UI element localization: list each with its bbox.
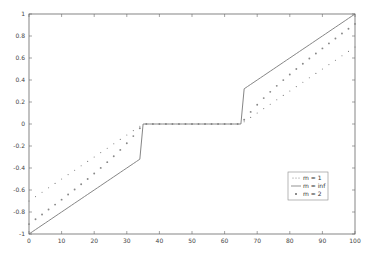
x-tick-label: 70 [253, 237, 261, 244]
point-m-2 [276, 85, 278, 87]
point-m-1 [68, 174, 69, 175]
y-tick-label: 0.6 [15, 54, 25, 61]
x-tick-label: 90 [319, 237, 327, 244]
point-m-2 [152, 123, 154, 125]
x-tick-label: 0 [27, 237, 31, 244]
point-m-2 [165, 123, 167, 125]
point-m-1 [348, 51, 349, 52]
point-m-2 [74, 189, 76, 191]
point-m-1 [283, 95, 284, 96]
legend-label: m = 2 [303, 190, 322, 197]
y-tick-label: 0 [21, 120, 25, 127]
point-m-1 [94, 156, 95, 157]
point-m-2 [106, 161, 108, 163]
point-m-2 [87, 178, 89, 180]
series-layer [28, 14, 356, 234]
x-tick-label: 60 [221, 237, 229, 244]
y-tick-label: -0.8 [13, 208, 25, 215]
x-tick-label: 50 [188, 237, 196, 244]
point-m-1 [289, 90, 290, 91]
point-m-2 [28, 223, 30, 225]
y-axis: -1-0.8-0.6-0.4-0.200.20.40.60.81 [13, 10, 355, 237]
point-m-2 [145, 123, 147, 125]
point-m-2 [295, 68, 297, 70]
point-m-2 [41, 213, 43, 215]
point-m-1 [55, 183, 56, 184]
point-m-2 [100, 167, 102, 169]
point-m-2 [67, 194, 69, 196]
point-m-2 [250, 111, 252, 113]
point-m-1 [81, 165, 82, 166]
point-m-1 [133, 130, 134, 131]
point-m-2 [61, 199, 63, 201]
point-m-2 [191, 123, 193, 125]
point-m-1 [341, 55, 342, 56]
x-tick-label: 10 [58, 237, 66, 244]
point-m-2 [334, 38, 336, 40]
y-tick-label: -0.6 [13, 186, 25, 193]
point-m-1 [296, 86, 297, 87]
point-m-1 [41, 192, 42, 193]
point-m-1 [328, 64, 329, 65]
point-m-2 [54, 204, 56, 206]
point-m-2 [211, 123, 213, 125]
point-m-2 [224, 123, 226, 125]
point-m-2 [269, 91, 271, 93]
point-m-1 [244, 121, 245, 122]
point-m-1 [276, 99, 277, 100]
point-m-2 [185, 123, 187, 125]
point-m-2 [178, 123, 180, 125]
point-m-1 [315, 73, 316, 74]
point-m-2 [230, 123, 232, 125]
y-tick-label: 1 [21, 10, 25, 17]
y-tick-label: -1 [19, 230, 25, 237]
x-tick-label: 100 [349, 237, 361, 244]
point-m-1 [257, 112, 258, 113]
point-m-2 [308, 58, 310, 60]
point-m-2 [119, 149, 121, 151]
point-m-1 [74, 170, 75, 171]
point-m-1 [126, 134, 127, 135]
point-m-2 [217, 123, 219, 125]
y-tick-label: 0.4 [15, 76, 25, 83]
point-m-2 [204, 123, 206, 125]
point-m-2 [321, 47, 323, 49]
point-m-2 [93, 173, 95, 175]
legend-label: m = inf [303, 182, 326, 189]
point-m-1 [87, 161, 88, 162]
point-m-2 [256, 104, 258, 106]
point-m-1 [335, 60, 336, 61]
chart: -1-0.8-0.6-0.4-0.200.20.40.60.81 0102030… [0, 0, 375, 255]
point-m-1 [263, 108, 264, 109]
x-tick-label: 40 [156, 237, 164, 244]
x-tick-label: 30 [123, 237, 131, 244]
point-m-2 [35, 218, 37, 220]
legend-label: m = 1 [303, 174, 322, 181]
point-m-2 [126, 142, 128, 144]
point-m-2 [48, 209, 50, 211]
y-tick-label: -0.4 [13, 164, 25, 171]
point-m-1 [322, 68, 323, 69]
point-m-2 [80, 183, 82, 185]
y-tick-label: 0.2 [15, 98, 25, 105]
x-tick-label: 20 [90, 237, 98, 244]
legend: m = 1 m = inf m = 2 [288, 172, 328, 200]
point-m-2 [315, 52, 317, 54]
point-m-1 [120, 139, 121, 140]
x-axis: 0102030405060708090100 [27, 14, 361, 244]
point-m-1 [270, 104, 271, 105]
point-m-2 [171, 123, 173, 125]
y-tick-label: 0.8 [15, 32, 25, 39]
point-m-1 [28, 200, 29, 201]
point-m-1 [61, 178, 62, 179]
point-m-2 [198, 123, 200, 125]
y-tick-label: -0.2 [13, 142, 25, 149]
point-m-1 [250, 117, 251, 118]
point-m-2 [302, 63, 304, 65]
point-m-2 [113, 155, 115, 157]
point-m-2 [354, 23, 356, 25]
point-m-1 [113, 143, 114, 144]
point-m-2 [263, 97, 265, 99]
point-m-2 [243, 119, 245, 121]
point-m-1 [107, 148, 108, 149]
